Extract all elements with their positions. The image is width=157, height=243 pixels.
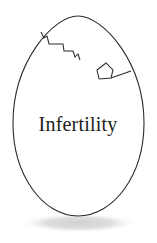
egg-illustration-svg: Infertility (0, 0, 157, 243)
illustration-canvas: Infertility (0, 0, 157, 243)
egg-label-text: Infertility (39, 113, 118, 136)
